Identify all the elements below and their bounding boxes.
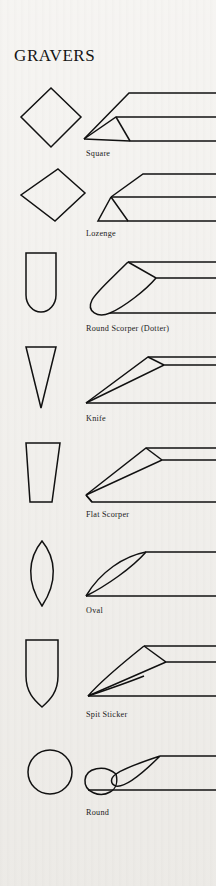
- cross-section-round-bottom-rect: [18, 250, 70, 320]
- graver-row-flat-scorper: Flat Scorper: [0, 440, 216, 520]
- side-view-round-scorper: [84, 250, 216, 322]
- graver-row-oval: Oval: [0, 538, 216, 618]
- cross-section-lozenge: [18, 166, 88, 224]
- graver-row-square: Square: [0, 86, 216, 160]
- cross-section-oval-lens: [18, 538, 70, 610]
- cross-section-diamond: [18, 86, 84, 150]
- graver-row-round: Round: [0, 746, 216, 824]
- label-flat-scorper: Flat Scorper: [86, 510, 129, 519]
- label-oval: Oval: [86, 606, 103, 615]
- label-square: Square: [86, 149, 110, 158]
- gravers-plate: GRAVERS Square: [0, 0, 216, 886]
- cross-section-circle: [24, 746, 76, 798]
- graver-row-knife: Knife: [0, 344, 216, 424]
- cross-section-knife-taper: [18, 344, 70, 412]
- side-view-knife-graver: [84, 344, 216, 412]
- label-lozenge: Lozenge: [86, 229, 116, 238]
- side-view-spit-sticker: [84, 636, 216, 708]
- page-title: GRAVERS: [14, 46, 95, 66]
- label-spit-sticker: Spit Sticker: [86, 710, 127, 719]
- label-round: Round: [86, 808, 109, 817]
- label-round-scorper: Round Scorper (Dotter): [86, 324, 169, 333]
- side-view-oval-graver: [84, 538, 216, 606]
- label-knife: Knife: [86, 414, 106, 423]
- graver-row-lozenge: Lozenge: [0, 166, 216, 240]
- side-view-square-graver: [84, 86, 216, 148]
- graver-row-round-scorper: Round Scorper (Dotter): [0, 250, 216, 334]
- side-view-flat-scorper: [84, 440, 216, 508]
- cross-section-flat-trapezoid: [18, 440, 70, 508]
- graver-row-spit-sticker: Spit Sticker: [0, 636, 216, 720]
- cross-section-shield: [18, 636, 70, 710]
- side-view-round-graver: [84, 746, 216, 806]
- side-view-lozenge-graver: [84, 166, 216, 228]
